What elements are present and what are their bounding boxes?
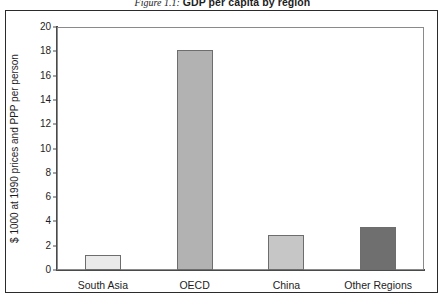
y-axis-tick-mark [53, 270, 57, 271]
y-axis-tick-mark [53, 51, 57, 52]
y-axis-tick-mark [53, 197, 57, 198]
x-axis-label: China [273, 279, 300, 291]
x-axis-label: Other Regions [344, 279, 412, 291]
y-axis-title: $ 1000 at 1990 prices and PPP per person [8, 27, 22, 270]
y-axis-tick-mark [53, 148, 57, 149]
y-axis-tick-mark [53, 221, 57, 222]
y-axis-tick-label: 2 [45, 241, 51, 251]
x-axis-label: OECD [179, 279, 209, 291]
y-axis-tick-label: 6 [45, 192, 51, 202]
figure-page: Figure 1.1: GDP per capita by region $ 1… [0, 0, 445, 301]
y-axis-tick-mark [53, 99, 57, 100]
y-axis-tick-mark [53, 245, 57, 246]
figure-caption-number: Figure 1.1: [135, 0, 180, 8]
y-axis-tick-label: 14 [40, 95, 51, 105]
y-axis-tick-label: 16 [40, 71, 51, 81]
y-axis-tick-mark [53, 27, 57, 28]
bar-south-asia [85, 255, 121, 270]
y-axis-tick-label: 20 [40, 22, 51, 32]
y-axis-tick-label: 8 [45, 168, 51, 178]
figure-caption: Figure 1.1: GDP per capita by region [0, 0, 445, 8]
y-axis-tick-label: 18 [40, 46, 51, 56]
bar-other-regions [360, 227, 396, 270]
y-axis-tick-label: 10 [40, 144, 51, 154]
y-axis-tick-label: 4 [45, 216, 51, 226]
bar-oecd [177, 50, 213, 270]
bar-chart: 20181614121086420 South AsiaOECDChinaOth… [57, 27, 424, 270]
y-axis-tick-mark [53, 172, 57, 173]
bar-china [268, 235, 304, 270]
figure-caption-title: GDP per capita by region [183, 0, 311, 8]
y-axis-tick-mark [53, 75, 57, 76]
x-axis-label: South Asia [78, 279, 128, 291]
y-axis-tick-label: 12 [40, 119, 51, 129]
y-axis-tick-mark [53, 124, 57, 125]
y-axis-tick-label: 0 [45, 265, 51, 275]
